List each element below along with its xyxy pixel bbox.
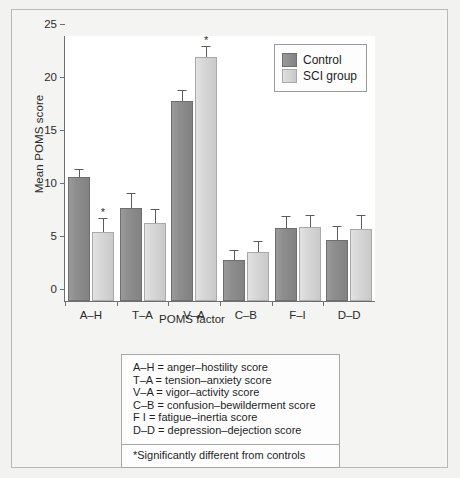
error-bar (310, 216, 311, 227)
plot-wrapper: Mean POMS score POMS factor 0510152025 A… (12, 10, 449, 340)
y-axis-tick: 5 (51, 230, 65, 242)
significance-note-box: *Significantly different from controls (121, 444, 340, 468)
error-bar-cap (333, 226, 342, 227)
error-bar (155, 210, 156, 223)
bar-control (223, 260, 245, 301)
legend-item-control: Control (282, 53, 357, 67)
bar-sci-group (92, 232, 114, 301)
error-bar-cap (98, 218, 107, 219)
error-bar-cap (202, 46, 211, 47)
bar-control (171, 101, 193, 301)
significance-note-text: *Significantly different from controls (133, 449, 330, 462)
error-bar (258, 242, 259, 253)
key-line: V–A = vigor–activity score (133, 386, 330, 399)
error-bar (131, 194, 132, 208)
error-bar-cap (150, 209, 159, 210)
bar-sci-group (350, 229, 372, 301)
legend-label-sci-group: SCI group (303, 69, 357, 83)
error-bar (182, 91, 183, 101)
bar-control (68, 177, 90, 301)
error-bar-cap (281, 216, 290, 217)
legend-swatch-sci-group-icon (282, 69, 297, 83)
x-axis-tick-label: C–B (235, 309, 257, 321)
error-bar-cap (74, 169, 83, 170)
y-axis-tick: 15 (44, 124, 65, 136)
significance-marker: * (204, 36, 208, 44)
x-axis-tick-label: A–H (80, 309, 102, 321)
error-bar-cap (178, 90, 187, 91)
error-bar (103, 219, 104, 232)
x-axis-tickmark (272, 301, 273, 306)
error-bar (337, 227, 338, 240)
error-bar (286, 217, 287, 228)
y-axis-tick: 10 (44, 177, 65, 189)
figure-frame: Mean POMS score POMS factor 0510152025 A… (11, 9, 448, 468)
error-bar (361, 216, 362, 229)
legend-item-sci-group: SCI group (282, 69, 357, 83)
x-axis-tick-label: F–I (289, 309, 306, 321)
error-bar-cap (305, 215, 314, 216)
x-axis-tick-label: T–A (132, 309, 153, 321)
x-axis-tickmark (65, 301, 66, 306)
bar-sci-group (144, 223, 166, 301)
y-axis-label: Mean POMS score (33, 84, 45, 204)
x-axis-tickmark (220, 301, 221, 306)
abbreviation-key-box: A–H = anger–hostility score T–A = tensio… (121, 354, 340, 445)
bar-control (326, 240, 348, 301)
error-bar-cap (229, 250, 238, 251)
error-bar (234, 251, 235, 259)
bar-sci-group (247, 252, 269, 301)
error-bar-cap (253, 241, 262, 242)
key-line: D–D = depression–dejection score (133, 424, 330, 437)
key-line: C–B = confusion–bewilderment score (133, 399, 330, 412)
error-bar-cap (126, 193, 135, 194)
bar-control (275, 228, 297, 301)
y-axis-tick: 25 (44, 18, 65, 30)
key-line: F I = fatigue–inertia score (133, 411, 330, 424)
y-axis-tick: 0 (51, 283, 65, 295)
error-bar (206, 47, 207, 58)
chart-legend: Control SCI group (274, 44, 367, 92)
x-axis-tickmark (168, 301, 169, 306)
x-axis-tick-label: V–A (183, 309, 205, 321)
error-bar-cap (357, 215, 366, 216)
key-line: T–A = tension–anxiety score (133, 374, 330, 387)
error-bar (79, 170, 80, 177)
bar-control (120, 208, 142, 301)
significance-marker: * (101, 208, 105, 216)
plot-area: 0510152025 A–HT–AV–AC–BF–ID–D ** Control… (64, 36, 375, 302)
x-axis-tick-label: D–D (338, 309, 361, 321)
bar-sci-group (195, 57, 217, 301)
x-axis-tickmark (323, 301, 324, 306)
legend-label-control: Control (303, 53, 342, 67)
bar-sci-group (299, 227, 321, 301)
key-line: A–H = anger–hostility score (133, 361, 330, 374)
figure-container: Mean POMS score POMS factor 0510152025 A… (0, 0, 460, 478)
x-axis-tickmark (117, 301, 118, 306)
legend-swatch-control-icon (282, 53, 297, 67)
y-axis-tick: 20 (44, 71, 65, 83)
